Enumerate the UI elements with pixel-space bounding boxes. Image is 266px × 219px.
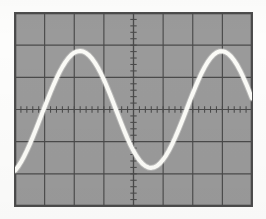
scope-screen[interactable] xyxy=(14,12,253,207)
oscilloscope-figure: Oscilloscope display showing a sine wave… xyxy=(0,0,266,219)
figure-description: Oscilloscope display showing a sine wave… xyxy=(0,0,1,1)
scope-graticule-svg xyxy=(15,13,252,206)
graticule-center-ticks xyxy=(15,13,252,206)
